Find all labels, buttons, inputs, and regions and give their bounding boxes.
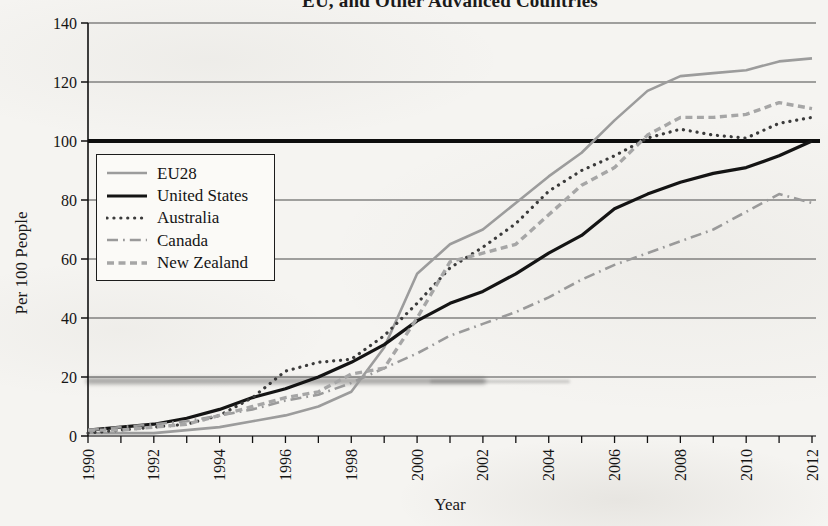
y-tick-label: 120: [53, 74, 77, 91]
y-tick-label: 60: [61, 251, 77, 268]
legend-item-australia: Australia: [106, 207, 268, 229]
legend-label: Canada: [157, 232, 208, 249]
x-tick-label: 2006: [606, 449, 623, 481]
legend-item-canada: Canada: [106, 229, 268, 251]
y-tick-label: 40: [61, 310, 77, 327]
x-tick-label: 2012: [804, 449, 821, 481]
legend-item-united-states: United States: [106, 184, 268, 206]
y-axis-title: Per 100 People: [12, 198, 32, 328]
x-tick-label: 2002: [474, 449, 491, 481]
legend-line-sample: [106, 258, 148, 268]
legend-line-sample: [106, 191, 148, 201]
chart-title: EU, and Other Advanced Countries: [88, 0, 812, 10]
x-tick-label: 1994: [211, 449, 228, 481]
x-tick-label: 2000: [409, 449, 426, 481]
y-tick-label: 20: [61, 369, 77, 386]
legend-label: EU28: [157, 165, 197, 182]
x-tick-label: 2004: [540, 449, 557, 481]
legend-label: Australia: [157, 209, 219, 226]
legend-label: United States: [157, 187, 248, 204]
y-tick-label: 0: [69, 428, 77, 445]
x-tick-label: 1996: [277, 449, 294, 481]
legend-line-sample: [106, 168, 148, 178]
x-tick-label: 1990: [80, 449, 97, 481]
y-tick-label: 80: [61, 192, 77, 209]
x-tick-label: 2010: [738, 449, 755, 481]
x-tick-label: 1992: [145, 449, 162, 481]
x-axis-title: Year: [88, 495, 812, 515]
legend-line-sample: [106, 235, 148, 245]
y-tick-label: 140: [53, 15, 77, 32]
legend-box: EU28United StatesAustraliaCanadaNew Zeal…: [96, 154, 275, 281]
scanned-chart-page: { "page": { "background": "#f5f4f1", "st…: [0, 0, 828, 526]
legend-line-sample: [106, 213, 148, 223]
legend-item-eu28: EU28: [106, 162, 268, 184]
legend-item-new-zealand: New Zealand: [106, 252, 268, 274]
y-tick-label: 100: [53, 133, 77, 150]
x-tick-label: 1998: [343, 449, 360, 481]
x-tick-label: 2008: [672, 449, 689, 481]
legend-label: New Zealand: [157, 254, 248, 271]
